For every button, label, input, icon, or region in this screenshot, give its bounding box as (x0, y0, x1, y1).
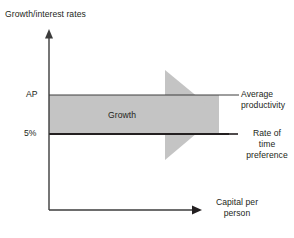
average-productivity-label: Average productivity (241, 89, 285, 111)
x-axis-label: Capital per person (205, 197, 269, 219)
growth-interest-rates-diagram: Growth/interest rates AP 5% Growth Avera… (0, 0, 294, 238)
y-axis-title: Growth/interest rates (5, 9, 86, 20)
x-axis-arrowhead-icon (192, 206, 202, 215)
y-tick-label-5-percent: 5% (24, 128, 37, 139)
growth-arrowhead (165, 70, 219, 160)
y-tick-label-ap: AP (26, 89, 38, 100)
growth-band-label: Growth (108, 110, 136, 121)
rate-of-time-preference-label: Rate of time preference (241, 128, 293, 162)
y-axis-arrowhead-icon (45, 29, 53, 39)
